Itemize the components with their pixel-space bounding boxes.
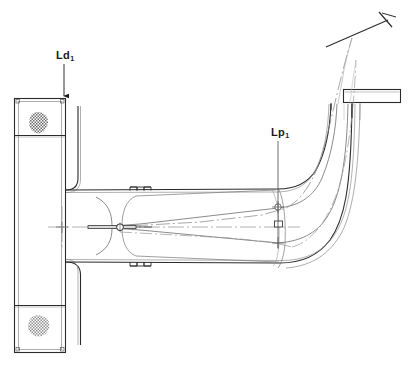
duct-lower-profile	[66, 104, 355, 345]
diagram-canvas: Ld1 Lp1	[0, 0, 411, 365]
label-ld1-subscript: 1	[70, 55, 74, 62]
slab-connectors	[331, 103, 360, 120]
bend-centerline	[112, 38, 356, 247]
axis-terminator	[326, 12, 396, 47]
masonry-hatch-top	[29, 112, 48, 133]
label-lp1-base: Lp	[271, 126, 285, 138]
main-centerline	[48, 206, 300, 250]
label-ld1: Ld1	[56, 50, 74, 61]
left-wall-section	[15, 99, 66, 353]
label-lp1-subscript: 1	[285, 132, 289, 139]
label-lp1: Lp1	[271, 127, 289, 138]
ceiling-slab	[344, 90, 401, 103]
duct-upper-profile	[66, 104, 331, 193]
label-ld1-base: Ld	[56, 49, 70, 61]
center-cross-marks	[56, 201, 284, 249]
masonry-hatch-bottom	[28, 315, 49, 336]
